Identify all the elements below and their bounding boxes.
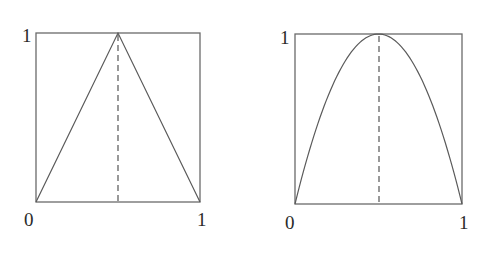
right-x-max-label: 1 bbox=[459, 212, 469, 233]
left-origin-label: 0 bbox=[24, 209, 34, 230]
right-y-max-label: 1 bbox=[280, 27, 290, 48]
figure-canvas: 1 0 1 1 0 1 bbox=[0, 0, 497, 261]
left-y-max-label: 1 bbox=[22, 25, 32, 46]
left-x-max-label: 1 bbox=[197, 209, 207, 230]
tent-map-panel: 1 0 1 bbox=[22, 25, 207, 230]
right-origin-label: 0 bbox=[285, 212, 295, 233]
logistic-map-panel: 1 0 1 bbox=[280, 27, 469, 233]
